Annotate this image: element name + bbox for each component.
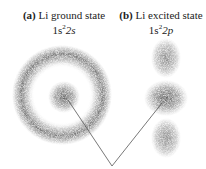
excited-state-cloud [144,38,188,158]
2p-lower-lobe [151,118,181,158]
1s-core [48,81,80,113]
2p-upper-lobe [151,38,181,78]
1s-core-excited [144,80,188,116]
ground-state-cloud [12,45,112,145]
orbital-diagram [0,0,206,169]
